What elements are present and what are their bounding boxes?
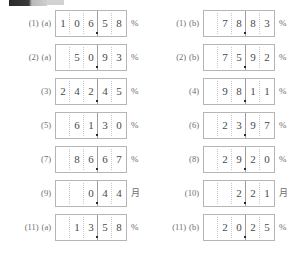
row-label-number: (2) bbox=[176, 52, 186, 62]
row-label: (1)(b) bbox=[148, 19, 203, 28]
answer-box[interactable]: 1358 bbox=[55, 214, 127, 241]
digit-cell[interactable]: 8 bbox=[70, 147, 84, 172]
unit-label-percent: % bbox=[131, 223, 139, 232]
digit-cell[interactable]: 7 bbox=[218, 11, 232, 36]
answer-box[interactable]: 6130 bbox=[55, 112, 127, 139]
answer-box[interactable]: 5093 bbox=[55, 44, 127, 71]
digit-cell[interactable]: 9 bbox=[246, 113, 260, 138]
digit-cell[interactable] bbox=[204, 79, 218, 104]
digit-cell[interactable] bbox=[70, 181, 84, 206]
row-label-part: (b) bbox=[189, 222, 199, 232]
digit-cell[interactable]: 6 bbox=[98, 147, 112, 172]
digit-cell[interactable] bbox=[204, 215, 218, 240]
answer-row: (2)(a)5093% bbox=[0, 42, 148, 72]
unit-label-percent: % bbox=[131, 19, 139, 28]
row-label-part: (a) bbox=[42, 222, 51, 232]
digit-cell[interactable] bbox=[56, 181, 70, 206]
digit-cell[interactable]: 6 bbox=[70, 113, 84, 138]
digit-cell[interactable]: 5 bbox=[260, 215, 274, 240]
answer-box[interactable]: 9811 bbox=[203, 78, 275, 105]
digit-cell[interactable]: 8 bbox=[112, 215, 126, 240]
row-label-number: (10) bbox=[185, 188, 199, 198]
answer-box[interactable]: 24245 bbox=[55, 78, 127, 105]
digit-cell[interactable]: 1 bbox=[260, 79, 274, 104]
digit-cell[interactable]: 0 bbox=[260, 147, 274, 172]
answer-box[interactable]: 044 bbox=[55, 180, 127, 207]
digit-cell[interactable] bbox=[204, 113, 218, 138]
answer-column-left: (1)(a)10658%(2)(a)5093%(3)24245%(5)6130%… bbox=[0, 0, 148, 257]
digit-cell[interactable]: 1 bbox=[70, 215, 84, 240]
digit-cell[interactable]: 3 bbox=[98, 113, 112, 138]
unit-label-percent: % bbox=[131, 155, 139, 164]
unit-label-percent: % bbox=[279, 223, 287, 232]
digit-cell[interactable]: 2 bbox=[246, 181, 260, 206]
digit-cell[interactable]: 8 bbox=[246, 11, 260, 36]
digit-cell[interactable]: 2 bbox=[218, 113, 232, 138]
answer-row: (7)8667% bbox=[0, 144, 148, 174]
digit-cell[interactable]: 2 bbox=[56, 79, 70, 104]
digit-cell[interactable] bbox=[204, 147, 218, 172]
unit-label-percent: % bbox=[131, 121, 139, 130]
answer-box[interactable]: 2397 bbox=[203, 112, 275, 139]
digit-cell[interactable]: 1 bbox=[246, 79, 260, 104]
digit-cell[interactable] bbox=[204, 45, 218, 70]
digit-cell[interactable]: 4 bbox=[70, 79, 84, 104]
digit-cell[interactable]: 4 bbox=[112, 181, 126, 206]
digit-cell[interactable]: 5 bbox=[70, 45, 84, 70]
digit-cell[interactable]: 8 bbox=[112, 11, 126, 36]
unit-label-month: 月 bbox=[279, 189, 288, 198]
digit-cell[interactable]: 2 bbox=[218, 215, 232, 240]
digit-cell[interactable]: 2 bbox=[246, 215, 260, 240]
digit-cell[interactable]: 3 bbox=[112, 45, 126, 70]
row-label: (5) bbox=[0, 121, 55, 130]
answer-row: (9)044月 bbox=[0, 178, 148, 208]
digit-cell[interactable]: 7 bbox=[112, 147, 126, 172]
digit-cell[interactable]: 0 bbox=[70, 11, 84, 36]
answer-box[interactable]: 7592 bbox=[203, 44, 275, 71]
digit-cell[interactable]: 9 bbox=[218, 79, 232, 104]
answer-box[interactable]: 2920 bbox=[203, 146, 275, 173]
digit-cell[interactable]: 5 bbox=[98, 215, 112, 240]
row-label-number: (6) bbox=[189, 120, 199, 130]
answer-column-right: (1)(b)7883%(2)(b)7592%(4)9811%(6)2397%(8… bbox=[148, 0, 296, 257]
row-label: (1)(a) bbox=[0, 19, 55, 28]
row-label-part: (a) bbox=[42, 18, 51, 28]
digit-cell[interactable]: 2 bbox=[260, 45, 274, 70]
digit-cell[interactable] bbox=[56, 45, 70, 70]
digit-cell[interactable]: 5 bbox=[112, 79, 126, 104]
digit-cell[interactable] bbox=[56, 215, 70, 240]
answer-row: (3)24245% bbox=[0, 76, 148, 106]
digit-cell[interactable]: 7 bbox=[260, 113, 274, 138]
unit-label-month: 月 bbox=[131, 189, 140, 198]
digit-cell[interactable] bbox=[204, 181, 218, 206]
digit-cell[interactable]: 1 bbox=[260, 181, 274, 206]
row-label: (11)(b) bbox=[148, 223, 203, 232]
digit-cell[interactable]: 7 bbox=[218, 45, 232, 70]
answer-box[interactable]: 2025 bbox=[203, 214, 275, 241]
digit-cell[interactable]: 2 bbox=[218, 147, 232, 172]
row-label-number: (3) bbox=[41, 86, 51, 96]
answer-box[interactable]: 10658 bbox=[55, 10, 127, 37]
digit-cell[interactable]: 4 bbox=[98, 79, 112, 104]
answer-box[interactable]: 7883 bbox=[203, 10, 275, 37]
digit-cell[interactable]: 1 bbox=[56, 11, 70, 36]
row-label-part: (b) bbox=[189, 52, 199, 62]
digit-cell[interactable]: 3 bbox=[260, 11, 274, 36]
row-label-part: (a) bbox=[42, 52, 51, 62]
digit-cell[interactable]: 9 bbox=[98, 45, 112, 70]
digit-cell[interactable]: 9 bbox=[246, 45, 260, 70]
answer-row: (1)(b)7883% bbox=[148, 8, 296, 38]
answer-box[interactable]: 221 bbox=[203, 180, 275, 207]
row-label-part: (b) bbox=[189, 18, 199, 28]
digit-cell[interactable] bbox=[56, 113, 70, 138]
digit-cell[interactable] bbox=[56, 147, 70, 172]
digit-cell[interactable]: 2 bbox=[246, 147, 260, 172]
digit-cell[interactable]: 0 bbox=[112, 113, 126, 138]
answer-row: (1)(a)10658% bbox=[0, 8, 148, 38]
digit-cell[interactable]: 5 bbox=[98, 11, 112, 36]
digit-cell[interactable]: 4 bbox=[98, 181, 112, 206]
answer-box[interactable]: 8667 bbox=[55, 146, 127, 173]
digit-cell[interactable] bbox=[204, 11, 218, 36]
digit-cell[interactable] bbox=[218, 181, 232, 206]
row-label: (3) bbox=[0, 87, 55, 96]
